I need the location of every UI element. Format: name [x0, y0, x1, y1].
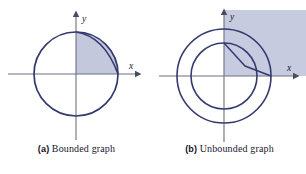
- panel-b-unbounded-graph: x y (b) Unbounded graph: [153, 0, 306, 174]
- panel-b-tag: (b): [185, 144, 197, 154]
- panel-b-caption: (b) Unbounded graph: [153, 143, 306, 154]
- panel-a-tag: (a): [38, 144, 49, 154]
- panel-b-shaded-region: [224, 10, 306, 76]
- panel-b-caption-text: Unbounded graph: [200, 143, 274, 154]
- figure-container: x y (a) Bounded graph: [0, 0, 306, 174]
- panel-b-y-axis-label: y: [229, 12, 235, 22]
- panel-a-caption: (a) Bounded graph: [0, 143, 153, 154]
- panel-a-caption-text: Bounded graph: [52, 143, 115, 154]
- panel-a-plot: x y: [0, 0, 153, 146]
- panel-b-plot: x y: [153, 0, 306, 146]
- panel-a-y-axis-label: y: [81, 14, 87, 24]
- panel-b-x-axis-label: x: [286, 63, 292, 73]
- panel-a-bounded-graph: x y (a) Bounded graph: [0, 0, 153, 174]
- panel-a-x-axis-label: x: [128, 61, 134, 71]
